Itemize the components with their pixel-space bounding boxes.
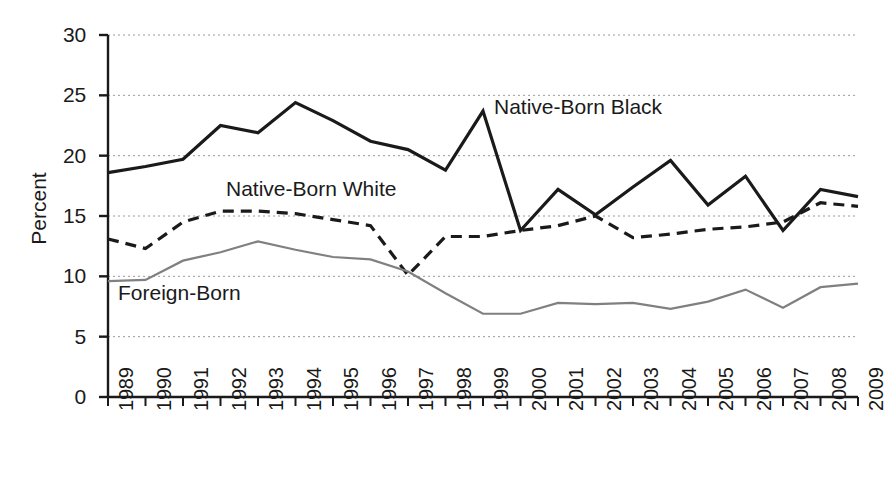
x-tick-label-2003: 2003 [641,367,661,411]
x-tick-label-2009: 2009 [866,367,886,411]
x-tick-label-1990: 1990 [154,367,174,411]
x-tick-label-1995: 1995 [341,367,361,411]
x-tick-label-1997: 1997 [416,367,436,411]
chart-container: Percent 302520151050 1989199019911992199… [0,0,889,480]
x-tick-label-1994: 1994 [304,367,324,411]
x-tick-label-2007: 2007 [791,367,811,411]
x-tick-label-2008: 2008 [829,367,849,411]
x-tick-label-1991: 1991 [191,367,211,411]
y-tick-label-25: 25 [40,84,86,105]
x-tick-label-1998: 1998 [454,367,474,411]
y-tick-label-30: 30 [40,24,86,45]
x-tick-label-1992: 1992 [229,367,249,411]
y-tick-label-10: 10 [40,265,86,286]
y-tick-label-20: 20 [40,145,86,166]
y-tick-label-5: 5 [40,326,86,347]
y-tick-label-0: 0 [40,386,86,407]
x-tick-label-2005: 2005 [716,367,736,411]
x-tick-label-2000: 2000 [529,367,549,411]
x-tick-label-2002: 2002 [604,367,624,411]
series-line-native-born-white [108,203,858,275]
series-line-native-born-black [108,103,858,231]
series-label-native-born-white: Native-Born White [226,178,396,199]
axis-ticks-group [99,35,858,406]
x-tick-label-1996: 1996 [379,367,399,411]
x-tick-label-1989: 1989 [116,367,136,411]
y-tick-label-15: 15 [40,205,86,226]
x-tick-label-1993: 1993 [266,367,286,411]
x-tick-label-2001: 2001 [566,367,586,411]
series-label-foreign-born: Foreign-Born [118,282,241,303]
x-tick-label-1999: 1999 [491,367,511,411]
x-tick-label-2004: 2004 [679,367,699,411]
series-label-native-born-black: Native-Born Black [494,96,662,117]
x-tick-label-2006: 2006 [754,367,774,411]
